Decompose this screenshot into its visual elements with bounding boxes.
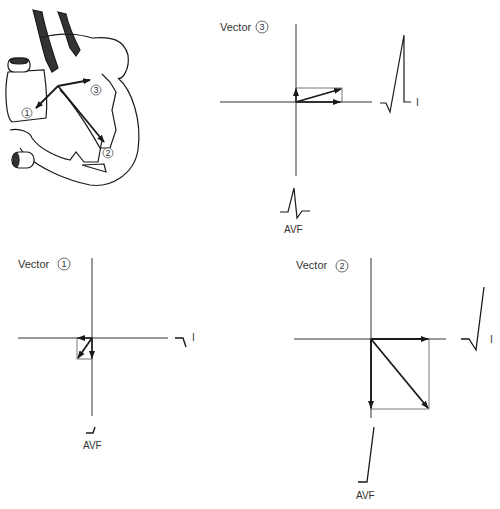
resultant-vector-arrow xyxy=(78,338,92,358)
panel-vector-1: Vector 1 I AVF xyxy=(18,258,195,451)
svg-text:AVF: AVF xyxy=(284,224,303,235)
svg-text:3: 3 xyxy=(93,85,98,95)
resultant-vector-arrow xyxy=(296,89,341,102)
svg-text:AVF: AVF xyxy=(83,440,102,451)
svg-text:I: I xyxy=(416,97,419,108)
avf-waveform xyxy=(358,427,374,482)
panel-vector-2: Vector 2 I AVF xyxy=(294,258,493,501)
heart-vector-3-arrow xyxy=(58,80,90,86)
lead-i-waveform xyxy=(461,287,484,350)
panel-number: 3 xyxy=(259,22,264,32)
svg-text:I: I xyxy=(192,332,195,343)
panel-vector-3: Vector 3 I AVF xyxy=(220,21,419,235)
panel-number: 1 xyxy=(61,259,66,269)
lead-i-waveform xyxy=(175,338,186,347)
panel-title: Vector xyxy=(296,259,328,271)
heart-illustration xyxy=(6,10,139,185)
panel-number: 2 xyxy=(339,261,344,271)
panel-title: Vector xyxy=(18,258,50,270)
svg-text:AVF: AVF xyxy=(356,490,375,501)
svg-text:2: 2 xyxy=(105,148,110,158)
resultant-vector-arrow xyxy=(371,339,428,408)
svg-text:1: 1 xyxy=(24,108,29,118)
panel-title: Vector xyxy=(220,21,252,33)
lead-i-waveform xyxy=(380,35,411,112)
avf-waveform xyxy=(86,427,95,433)
svg-text:I: I xyxy=(490,334,493,345)
vector-diagram: 3 1 2 Vector 3 I AVF Vector 1 xyxy=(0,0,500,509)
avf-waveform xyxy=(280,188,310,218)
